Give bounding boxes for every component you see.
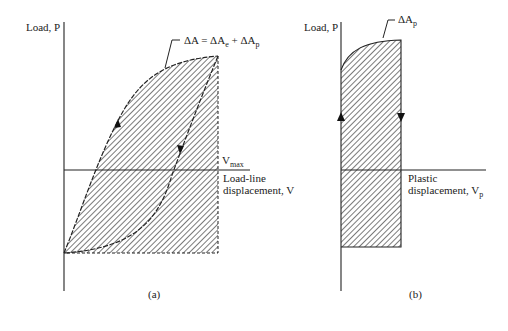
area-label-a-main: ΔA = ΔA <box>184 34 225 46</box>
vmax-label: Vmax <box>222 154 244 166</box>
caption-b: (b) <box>409 288 422 300</box>
area-label-b-sub: p <box>413 19 417 28</box>
x-axis-label-a-line2: displacement, V <box>223 184 294 196</box>
area-label-b: ΔAp <box>398 13 417 25</box>
vmax-label-main: V <box>222 154 230 166</box>
y-axis-label-a: Load, P <box>26 21 60 33</box>
x-axis-label-b-line2: displacement, Vp <box>408 184 483 196</box>
area-label-b-main: ΔA <box>398 13 413 25</box>
area-leader-line-b <box>383 20 395 38</box>
x-axis-label-a-line1: Load-line <box>223 172 266 184</box>
caption-a: (a) <box>148 288 160 300</box>
area-label-a-plus: + ΔA <box>229 34 256 46</box>
diagram-canvas <box>0 0 508 331</box>
x-axis-label-b-line1: Plastic <box>408 172 437 184</box>
panel-b <box>337 20 486 291</box>
y-axis-label-b: Load, P <box>304 21 338 33</box>
vmax-label-sub: max <box>230 160 244 169</box>
area-label-a: ΔA = ΔAe + ΔAp <box>184 34 259 46</box>
hysteresis-area-hatch <box>64 56 218 253</box>
x-axis-label-b-sub: p <box>479 190 483 199</box>
x-axis-label-b-main: displacement, V <box>408 184 479 196</box>
plastic-area-hatch <box>341 40 401 247</box>
area-label-a-sub-p: p <box>255 40 259 49</box>
